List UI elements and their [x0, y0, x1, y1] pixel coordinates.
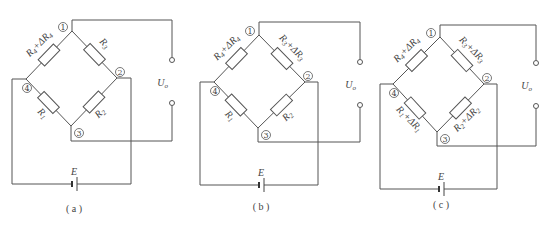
supply-right-wire: [264, 82, 318, 185]
output-terminal-positive: [170, 58, 175, 63]
bridge-panel-b: UoE1234R4+ΔR4R3+ΔR3R1R2( b ): [200, 22, 363, 213]
bridge-panel-a: UoE1234R4+ΔR4R3R1R2( a ): [12, 20, 175, 215]
node-2-number: 2: [117, 68, 122, 77]
panel-caption: ( c ): [433, 199, 449, 211]
output-terminal-negative: [534, 104, 539, 109]
node-2-number: 2: [484, 74, 489, 83]
source-voltage-label: E: [437, 171, 444, 182]
node-1-number: 1: [60, 23, 65, 32]
output-voltage-sub: o: [165, 82, 169, 90]
output-voltage-label: Uo: [157, 77, 168, 90]
output-terminal-negative: [358, 103, 363, 108]
node-1-number: 1: [428, 29, 433, 38]
output-terminal-positive: [358, 60, 363, 65]
panel-caption: ( b ): [253, 201, 270, 213]
output-terminal-positive: [534, 61, 539, 66]
source-voltage-label: E: [70, 166, 77, 177]
output-terminal-negative: [170, 101, 175, 106]
source-voltage-label: E: [257, 167, 264, 178]
node-3-number: 3: [442, 135, 447, 144]
supply-right-wire: [444, 84, 497, 189]
output-voltage-sub: o: [353, 84, 357, 92]
output-voltage-label: Uo: [521, 80, 532, 93]
node-4-number: 4: [24, 84, 29, 93]
output-voltage-label: Uo: [345, 79, 356, 92]
panel-caption: ( a ): [66, 203, 82, 215]
node-2-number: 2: [305, 72, 310, 81]
bridge-panel-c: UoE1234R4+ΔR4R3+ΔR3R1+ΔR1R2+ΔR2( c ): [380, 25, 539, 211]
supply-right-wire: [77, 78, 131, 184]
node-3-number: 3: [76, 129, 81, 138]
node-3-number: 3: [263, 131, 268, 140]
bridge-circuit-diagram: UoE1234R4+ΔR4R3R1R2( a )UoE1234R4+ΔR4R3+…: [0, 0, 556, 227]
node-1-number: 1: [247, 27, 252, 36]
resistor-r3-label: R3: [96, 35, 113, 52]
output-voltage-sub: o: [529, 85, 533, 93]
node-4-number: 4: [391, 89, 396, 98]
node-4-number: 4: [212, 87, 217, 96]
